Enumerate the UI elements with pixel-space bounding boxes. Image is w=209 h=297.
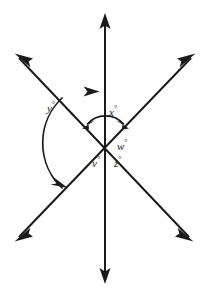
arc-y-arrowhead-top <box>84 87 100 97</box>
arrowhead-lower-right <box>175 228 194 242</box>
angle-label-y-degree: ° <box>52 100 55 109</box>
diagram-canvas <box>0 0 209 297</box>
angle-label-x-degree: ° <box>114 104 117 113</box>
angle-label-w: w° <box>117 139 128 152</box>
angle-diagram: y° x° w° v° z° <box>0 0 209 297</box>
angle-label-v: v° <box>92 156 100 169</box>
arrowhead-lower-left <box>15 228 34 242</box>
arrowhead-upper-right <box>177 54 196 68</box>
angle-label-z: z° <box>114 156 121 169</box>
arrowhead-upper-left <box>15 54 34 68</box>
angle-label-v-degree: ° <box>97 155 100 164</box>
angle-label-y: y° <box>47 101 55 114</box>
angle-label-x: x° <box>109 105 117 118</box>
angle-label-z-degree: ° <box>118 155 121 164</box>
lines-group <box>19 18 191 279</box>
angle-label-w-degree: ° <box>124 138 127 147</box>
